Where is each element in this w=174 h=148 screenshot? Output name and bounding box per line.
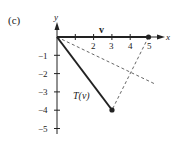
panel-label: (c) — [8, 14, 21, 27]
y-axis-arrow-icon — [55, 22, 60, 30]
y-tick-neg1: −1 — [38, 51, 48, 61]
y-axis-label: y — [53, 12, 58, 22]
y-tick-neg3: −3 — [38, 87, 48, 97]
y-tick-neg2: −2 — [38, 69, 48, 79]
x-tick-3: 3 — [109, 41, 114, 51]
x-axis-arrow-icon — [157, 35, 165, 40]
vector-tv-label: T(v) — [73, 90, 90, 102]
vector-diagram: (c) y x 2 3 4 5 −1 −2 −3 −4 −5 v T(v) — [0, 0, 174, 148]
vector-tv-endpoint — [109, 107, 114, 112]
x-tick-4: 4 — [128, 41, 133, 51]
vector-v-endpoint — [146, 34, 151, 39]
x-axis-label: x — [165, 32, 170, 42]
x-tick-2: 2 — [91, 41, 96, 51]
reflection-line — [57, 37, 155, 84]
y-tick-neg5: −5 — [38, 124, 48, 134]
vector-v-label: v — [99, 24, 104, 35]
x-tick-5: 5 — [147, 41, 152, 51]
y-tick-neg4: −4 — [38, 105, 48, 115]
